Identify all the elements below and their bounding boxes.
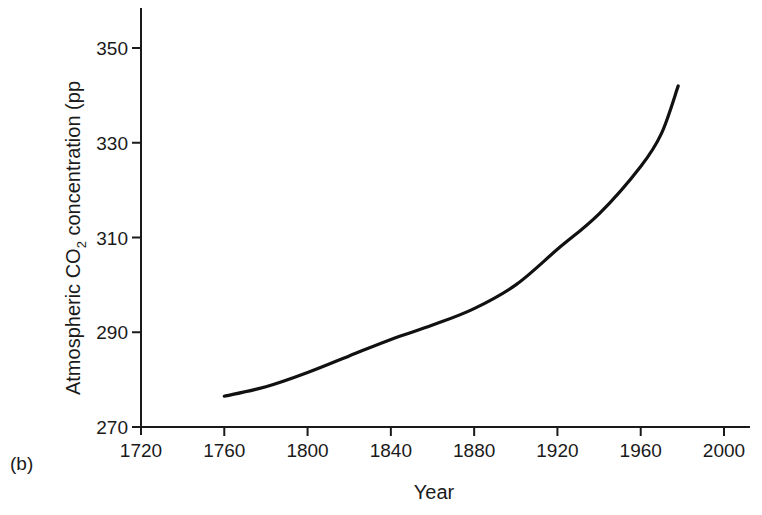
y-tick-label: 350 xyxy=(96,38,128,59)
x-tick-label: 2000 xyxy=(703,440,745,461)
y-axis-ticks: 270290310330350 xyxy=(96,38,141,438)
x-axis-ticks: 17201760180018401880192019602000 xyxy=(120,427,745,461)
x-axis-title: Year xyxy=(414,481,455,503)
axes xyxy=(133,8,750,435)
x-tick-label: 1760 xyxy=(203,440,245,461)
y-tick-label: 330 xyxy=(96,133,128,154)
x-tick-label: 1880 xyxy=(453,440,495,461)
x-tick-label: 1840 xyxy=(370,440,412,461)
x-tick-label: 1920 xyxy=(536,440,578,461)
y-axis-title: Atmospheric CO2 concentration (pp xyxy=(62,81,89,395)
x-tick-label: 1800 xyxy=(286,440,328,461)
y-tick-label: 310 xyxy=(96,228,128,249)
y-tick-label: 270 xyxy=(96,417,128,438)
co2-line-chart: 17201760180018401880192019602000 2702903… xyxy=(0,0,762,515)
x-tick-label: 1960 xyxy=(620,440,662,461)
y-axis-title-subscript: 2 xyxy=(74,241,89,248)
y-tick-label: 290 xyxy=(96,322,128,343)
x-tick-label: 1720 xyxy=(120,440,162,461)
co2-concentration-line xyxy=(224,86,678,396)
y-axis-title-prefix: Atmospheric CO xyxy=(62,248,84,395)
y-axis-title-suffix: concentration (pp xyxy=(62,81,84,241)
panel-label: (b) xyxy=(10,453,33,474)
